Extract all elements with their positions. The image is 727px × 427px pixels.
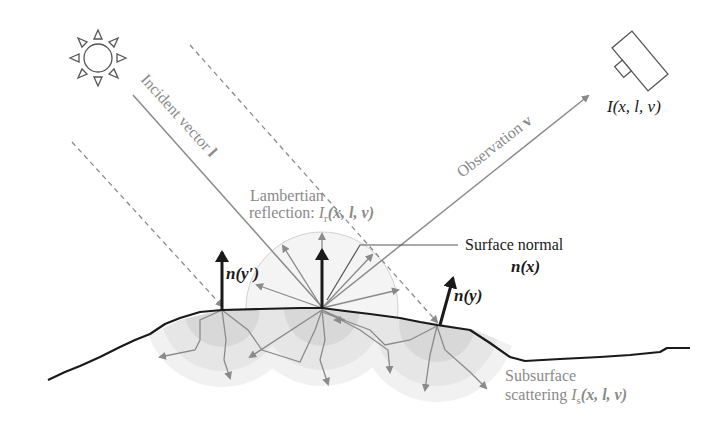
normal-y-prime-label: n(y′) bbox=[226, 264, 259, 283]
reflection-diagram: Incident vector l Observation v I(x, l, … bbox=[0, 0, 727, 427]
observation-vector-line bbox=[322, 96, 588, 308]
camera-icon bbox=[604, 31, 668, 97]
subsurface-label-line2: scattering Is(x, l, v) bbox=[505, 386, 627, 406]
subsurface-label-line1: Subsurface bbox=[505, 367, 576, 384]
normal-y-label: n(y) bbox=[454, 286, 482, 305]
sun-icon bbox=[70, 30, 126, 86]
lambertian-label-line1: Lambertian bbox=[250, 187, 324, 204]
lambertian-label-line2: reflection: Ir(x, l, v) bbox=[249, 204, 374, 224]
surface-normal-symbol: n(x) bbox=[511, 257, 540, 276]
surface-normal-label: Surface normal bbox=[465, 236, 564, 253]
normal-arrow-y bbox=[440, 278, 453, 325]
camera-intensity-label: I(x, l, v) bbox=[606, 97, 661, 116]
